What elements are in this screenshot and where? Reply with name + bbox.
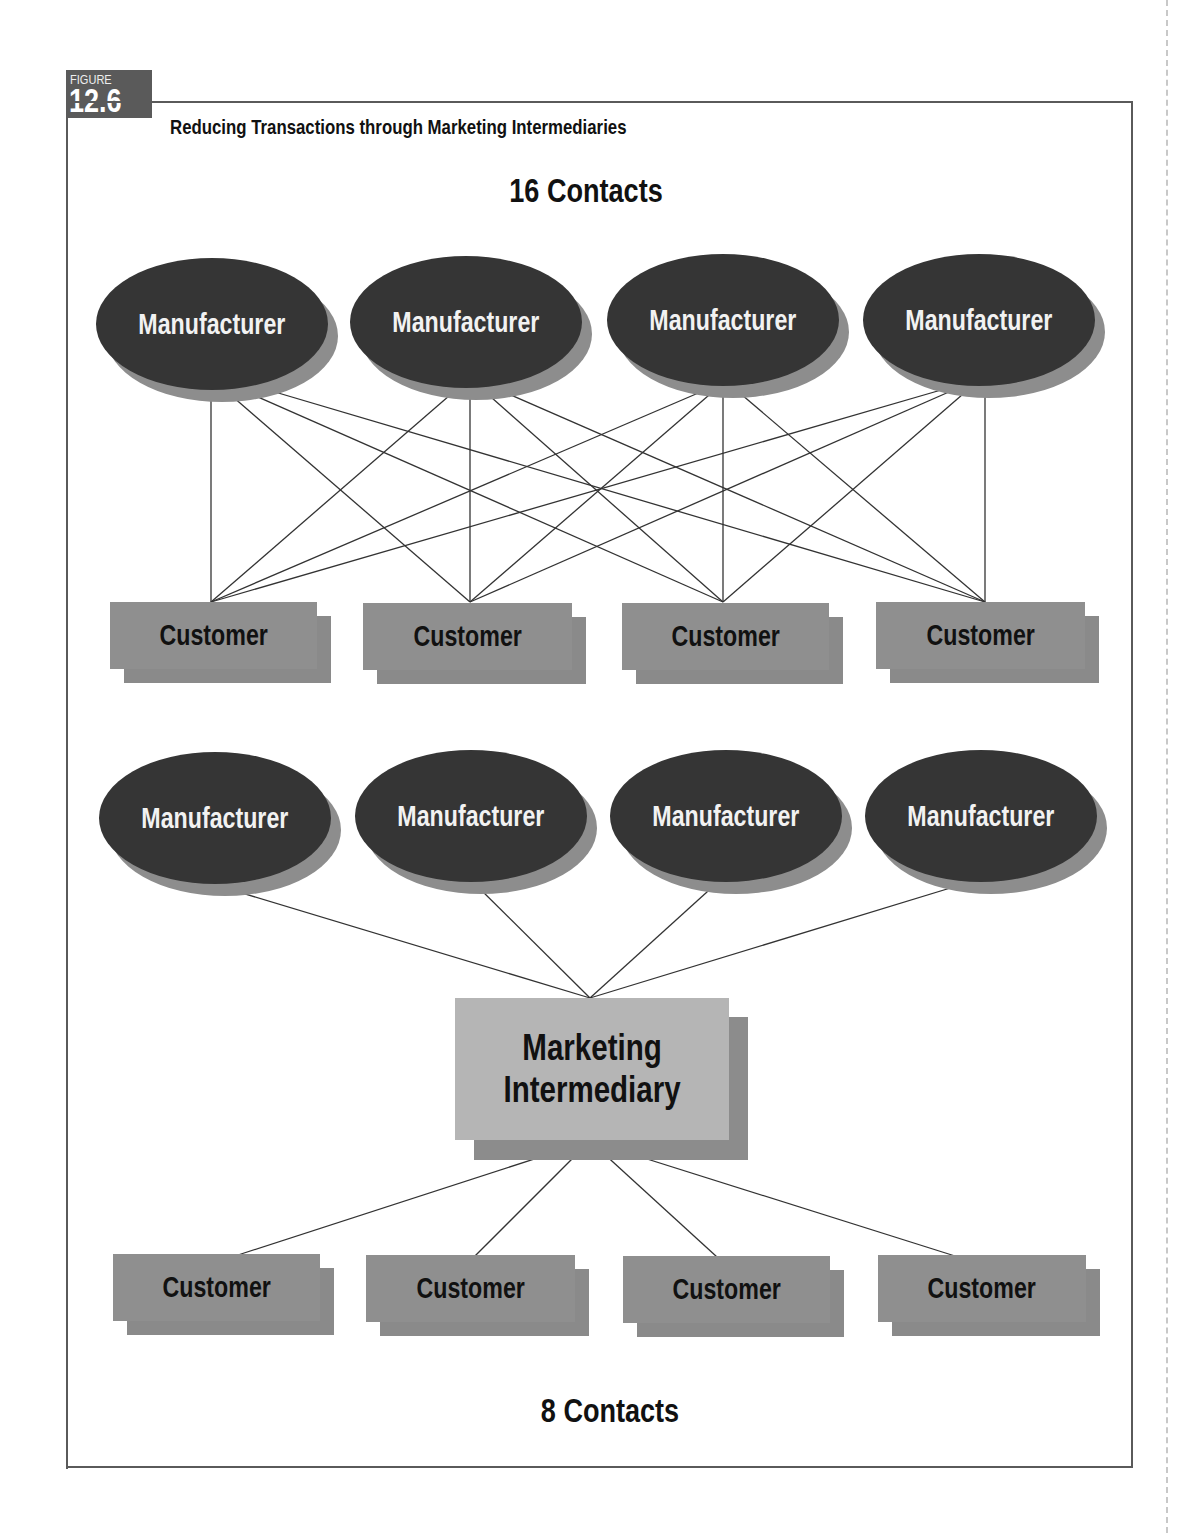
customer-label: Customer [928, 1272, 1036, 1305]
customer-label: Customer [671, 620, 779, 653]
customer-label: Customer [162, 1271, 270, 1304]
customer-label: Customer [159, 619, 267, 652]
manufacturer-ellipse: Manufacturer [350, 256, 582, 388]
customer-box: Customer [363, 603, 572, 670]
manufacturer-label: Manufacturer [142, 802, 289, 835]
bottom-manufacturer-lines [212, 882, 970, 998]
manufacturer-label: Manufacturer [139, 308, 286, 341]
intermediary-label-line1: Marketing [522, 1027, 661, 1069]
manufacturer-label: Manufacturer [398, 800, 545, 833]
customer-box: Customer [876, 602, 1085, 669]
customer-box: Customer [622, 603, 829, 670]
bottom-contacts-heading: 8 Contacts [446, 1392, 774, 1430]
manufacturer-label: Manufacturer [906, 304, 1053, 337]
customer-label: Customer [413, 620, 521, 653]
manufacturer-ellipse: Manufacturer [865, 750, 1097, 882]
manufacturer-ellipse: Manufacturer [610, 750, 842, 882]
customer-box: Customer [366, 1255, 575, 1322]
customer-label: Customer [416, 1272, 524, 1305]
manufacturer-label: Manufacturer [650, 304, 797, 337]
customer-box: Customer [623, 1256, 830, 1323]
customer-label: Customer [672, 1273, 780, 1306]
manufacturer-ellipse: Manufacturer [96, 258, 328, 390]
manufacturer-label: Manufacturer [393, 306, 540, 339]
top-network-lines [211, 387, 985, 602]
intermediary-box: Marketing Intermediary [455, 998, 729, 1140]
customer-box: Customer [113, 1254, 320, 1321]
customer-box: Customer [110, 602, 317, 669]
manufacturer-ellipse: Manufacturer [99, 752, 331, 884]
manufacturer-label: Manufacturer [908, 800, 1055, 833]
manufacturer-label: Manufacturer [653, 800, 800, 833]
manufacturer-ellipse: Manufacturer [355, 750, 587, 882]
customer-box: Customer [878, 1255, 1086, 1322]
customer-label: Customer [926, 619, 1034, 652]
manufacturer-ellipse: Manufacturer [863, 254, 1095, 386]
intermediary-label-line2: Intermediary [503, 1069, 680, 1111]
manufacturer-ellipse: Manufacturer [607, 254, 839, 386]
